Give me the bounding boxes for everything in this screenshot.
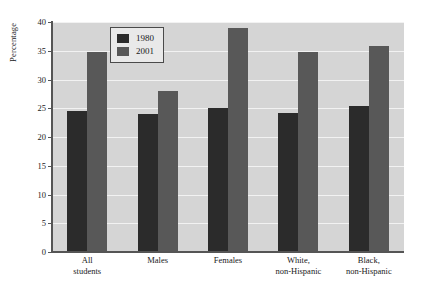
bar-chart: Percentage 0510152025303540 1980 2001 Al…	[0, 0, 428, 285]
bar-1980	[138, 114, 158, 252]
bar-group	[67, 22, 107, 252]
y-tick-label: 25	[38, 104, 47, 113]
bar-2001	[298, 52, 318, 252]
bar-1980	[208, 108, 228, 252]
legend-item-2001: 2001	[117, 45, 154, 58]
bar-1980	[349, 106, 369, 252]
y-axis-title: Percentage	[8, 0, 18, 62]
bar-group	[349, 22, 389, 252]
x-category-label: White, non-Hispanic	[263, 255, 333, 276]
bar-1980	[278, 113, 298, 252]
x-category-label: Black, non-Hispanic	[334, 255, 404, 276]
y-axis-line	[51, 21, 53, 253]
y-tick-label: 40	[38, 18, 47, 27]
plot-area: 0510152025303540	[52, 22, 404, 252]
y-tick-label: 10	[38, 190, 47, 199]
y-tick-label: 30	[38, 75, 47, 84]
bar-2001	[228, 28, 248, 252]
y-tick-label: 15	[38, 162, 47, 171]
bar-2001	[158, 91, 178, 252]
y-tick-label: 5	[42, 219, 46, 228]
legend-swatch-1980	[117, 34, 129, 43]
legend-label-1980: 1980	[136, 34, 154, 43]
chart-legend: 1980 2001	[110, 27, 164, 63]
x-category-label: Males	[122, 255, 192, 266]
bar-group	[278, 22, 318, 252]
x-category-label: All students	[52, 255, 122, 276]
y-tick-label: 20	[38, 133, 47, 142]
legend-label-2001: 2001	[136, 47, 154, 56]
bar-1980	[67, 111, 87, 252]
bar-2001	[87, 52, 107, 252]
legend-swatch-2001	[117, 47, 129, 56]
bar-2001	[369, 46, 389, 252]
y-tick-label: 0	[42, 248, 46, 257]
x-category-label: Females	[193, 255, 263, 266]
y-tick-label: 35	[38, 47, 47, 56]
legend-item-1980: 1980	[117, 32, 154, 45]
bar-group	[208, 22, 248, 252]
x-axis-line	[51, 251, 404, 253]
